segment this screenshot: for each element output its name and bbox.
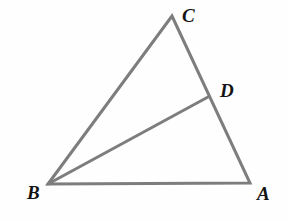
segment-bd-cevian: [48, 97, 208, 184]
vertex-label-b: B: [27, 183, 40, 202]
geometry-figure: C D B A: [0, 0, 288, 221]
vertex-label-a: A: [257, 184, 270, 203]
geometry-canvas: [0, 0, 288, 221]
vertex-label-c: C: [182, 6, 195, 25]
vertex-label-d: D: [220, 81, 234, 100]
